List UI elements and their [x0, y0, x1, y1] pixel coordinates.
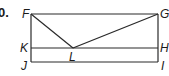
label-l: L: [69, 50, 76, 64]
label-i: I: [161, 59, 165, 73]
label-h: H: [160, 41, 169, 55]
label-j: J: [20, 59, 28, 73]
label-g: G: [160, 7, 169, 21]
problem-number: 0.: [0, 5, 9, 20]
segment-fl: [31, 14, 73, 48]
label-f: F: [22, 7, 30, 21]
label-k: K: [20, 41, 29, 55]
segment-lg: [73, 14, 158, 48]
geometry-diagram: 0. F G K H J I L: [0, 0, 169, 76]
